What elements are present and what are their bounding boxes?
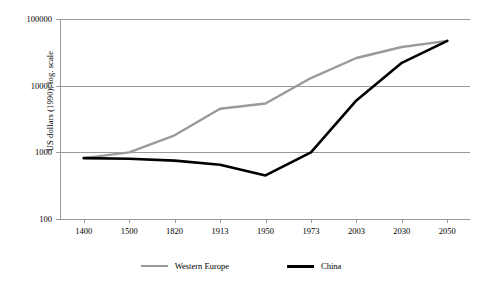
series-lines bbox=[0, 0, 482, 288]
legend-swatch-western-europe bbox=[141, 265, 168, 268]
series-line-china bbox=[84, 41, 448, 176]
series-line-western-europe bbox=[84, 41, 448, 158]
chart-figure: US dollars (1990); log. scale 1001000100… bbox=[0, 0, 482, 288]
chart-legend: Western Europe China bbox=[0, 261, 482, 271]
legend-label-western-europe: Western Europe bbox=[175, 261, 229, 271]
legend-swatch-china bbox=[287, 265, 314, 268]
legend-label-china: China bbox=[321, 261, 341, 271]
legend-item-western-europe: Western Europe bbox=[141, 261, 229, 271]
legend-item-china: China bbox=[287, 261, 341, 271]
